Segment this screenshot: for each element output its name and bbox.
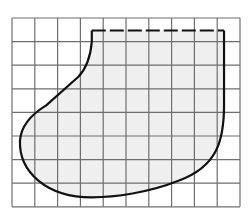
grid-figure (0, 0, 252, 223)
area-diagram (0, 0, 252, 223)
shaded-region (20, 31, 224, 198)
